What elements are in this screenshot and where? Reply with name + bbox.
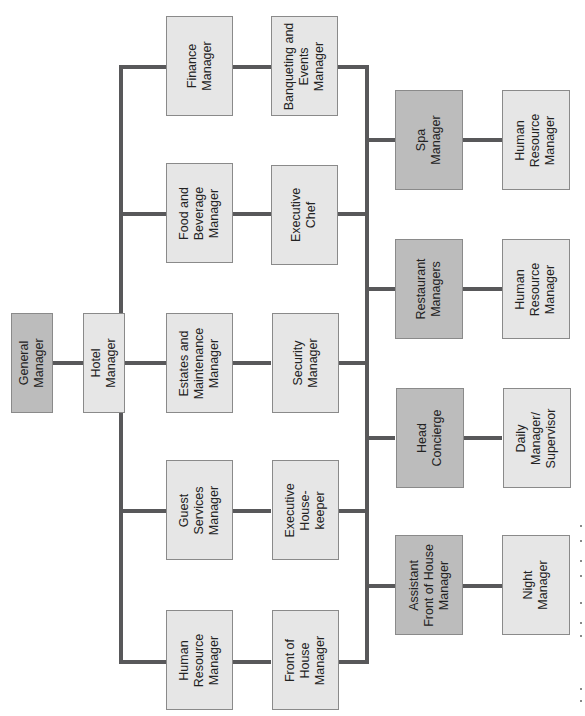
- restaurant-managers-label: Restaurant Managers: [414, 258, 444, 319]
- hotel-manager-label: Hotel Manager: [89, 338, 119, 387]
- guest-services-manager-box: Guest Services Manager: [166, 460, 233, 560]
- guest-services-manager-label: Guest Services Manager: [177, 485, 222, 534]
- finance-manager-label: Finance Manager: [185, 41, 215, 90]
- hotel-manager-box: Hotel Manager: [83, 313, 125, 413]
- head-concierge-box: Head Concierge: [396, 388, 464, 488]
- right-trunk: [365, 65, 369, 664]
- food-beverage-manager-box: Food and Beverage Manager: [166, 163, 233, 263]
- front-of-house-manager-label: Front of House Manager: [283, 635, 328, 684]
- connector-row4-left: [119, 509, 166, 513]
- food-beverage-manager-label: Food and Beverage Manager: [177, 186, 222, 240]
- spa-human-resource-manager-label: Human Resource Manager: [514, 113, 559, 167]
- spa-manager-label: Spa Manager: [414, 115, 444, 164]
- assistant-front-of-house-manager-box: Assistant Front of House Manager: [395, 535, 463, 635]
- connector-spa-report: [463, 138, 502, 142]
- assistant-front-of-house-manager-label: Assistant Front of House Manager: [407, 544, 452, 627]
- front-of-house-manager-box: Front of House Manager: [272, 610, 339, 710]
- head-concierge-label: Head Concierge: [415, 410, 445, 467]
- general-manager-box: General Manager: [11, 313, 53, 413]
- night-manager-label: Night Manager: [521, 560, 551, 609]
- connector-concierge: [365, 436, 395, 440]
- spa-manager-box: Spa Manager: [395, 90, 463, 190]
- estates-maintenance-manager-label: Estates and Maintenance Manager: [177, 327, 222, 399]
- restaurant-managers-box: Restaurant Managers: [395, 239, 463, 339]
- connector-row5-left: [119, 660, 166, 664]
- executive-chef-label: Executive Chef: [289, 188, 319, 242]
- connector-hotel-trunk: [125, 361, 166, 365]
- connector-row1-mid: [233, 65, 271, 69]
- security-manager-box: Security Manager: [272, 313, 339, 413]
- human-resource-manager-label: Human Resource Manager: [177, 633, 222, 687]
- connector-row4-mid: [233, 509, 271, 513]
- connector-row1-left: [119, 65, 166, 69]
- human-resource-manager-box: Human Resource Manager: [166, 610, 233, 710]
- executive-housekeeper-box: Executive House- keeper: [272, 460, 339, 560]
- estates-maintenance-manager-box: Estates and Maintenance Manager: [166, 313, 233, 413]
- restaurant-human-resource-manager-label: Human Resource Manager: [514, 262, 559, 316]
- restaurant-human-resource-manager-box: Human Resource Manager: [502, 239, 570, 339]
- night-manager-box: Night Manager: [502, 535, 570, 635]
- banqueting-events-manager-label: Banqueting and Events Manager: [282, 22, 327, 110]
- connector-gm-hotel: [53, 361, 83, 365]
- connector-row2-mid: [233, 212, 271, 216]
- spa-human-resource-manager-box: Human Resource Manager: [502, 90, 570, 190]
- banqueting-events-manager-box: Banqueting and Events Manager: [271, 16, 338, 116]
- connector-spa: [365, 138, 395, 142]
- general-manager-label: General Manager: [17, 338, 47, 387]
- finance-manager-box: Finance Manager: [166, 16, 233, 116]
- org-chart: General Manager Hotel Manager Finance Ma…: [0, 0, 585, 716]
- executive-chef-box: Executive Chef: [271, 165, 338, 265]
- connector-assistant-report: [463, 584, 502, 588]
- daily-manager-supervisor-label: Daily Manager/ Supervisor: [515, 408, 560, 468]
- connector-assistant: [365, 584, 395, 588]
- security-manager-label: Security Manager: [291, 338, 321, 387]
- connector-restaurant-report: [463, 287, 502, 291]
- connector-row3-mid: [233, 361, 271, 365]
- connector-restaurant: [365, 287, 395, 291]
- cropped-caption-fragment: [577, 520, 585, 716]
- daily-manager-supervisor-box: Daily Manager/ Supervisor: [503, 388, 571, 488]
- executive-housekeeper-label: Executive House- keeper: [283, 483, 328, 537]
- connector-row5-mid: [233, 660, 271, 664]
- connector-concierge-report: [463, 436, 502, 440]
- connector-row2-left: [119, 212, 166, 216]
